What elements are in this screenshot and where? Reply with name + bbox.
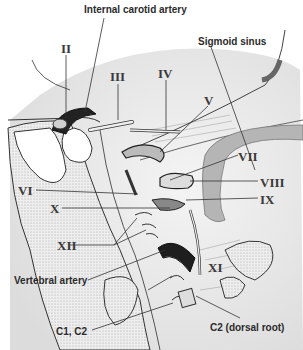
label-c2-dorsal-root: C2 (dorsal root) [210, 323, 284, 333]
anatomy-figure: Internal carotid artery Sigmoid sinus II… [0, 0, 303, 350]
label-nerve-v: V [204, 94, 213, 107]
label-nerve-x: X [50, 202, 59, 215]
label-internal-carotid-artery: Internal carotid artery [84, 5, 187, 15]
label-nerve-vii: VII [238, 150, 258, 163]
label-vertebral-artery: Vertebral artery [14, 276, 87, 286]
label-nerve-vi: VI [18, 184, 32, 197]
label-nerve-xi: XI [208, 261, 222, 274]
label-nerve-ix: IX [260, 193, 274, 206]
nerve-vii-viii-shape [160, 173, 193, 188]
label-c1-c2: C1, C2 [56, 327, 87, 337]
label-sigmoid-sinus: Sigmoid sinus [198, 37, 266, 47]
label-nerve-iii: III [110, 70, 125, 83]
optic-nerve-shape [53, 119, 67, 129]
illustration-canvas [0, 0, 303, 350]
label-nerve-iv: IV [158, 67, 172, 80]
label-nerve-viii: VIII [260, 176, 285, 189]
label-nerve-ii: II [61, 42, 71, 55]
label-nerve-xii: XII [57, 239, 77, 252]
